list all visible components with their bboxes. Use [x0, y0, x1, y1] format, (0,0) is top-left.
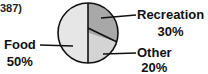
value-text: 20%: [137, 61, 172, 74]
value-text: 30%: [137, 25, 204, 39]
label-text: Recreation: [137, 8, 204, 22]
value-text: 50%: [4, 55, 36, 69]
slice-label-other: Other 20%: [137, 46, 172, 74]
slice-label-recreation: Recreation 30%: [137, 8, 204, 39]
label-text: Food: [4, 38, 36, 52]
slice-label-food: Food 50%: [4, 38, 36, 69]
label-text: Other: [137, 46, 172, 60]
pie-slice-food: [58, 3, 88, 63]
